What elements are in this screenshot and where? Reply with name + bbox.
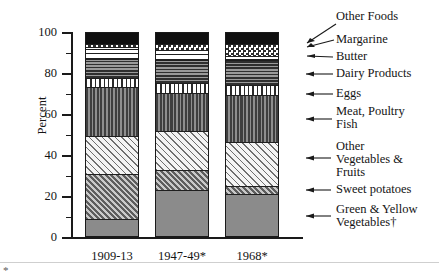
leader-lines (0, 0, 439, 275)
page-divider (0, 262, 439, 263)
footnote-marker: * (3, 264, 9, 275)
stacked-bar-chart: Percent 020406080100 1909-131947-49*1968… (0, 0, 439, 275)
